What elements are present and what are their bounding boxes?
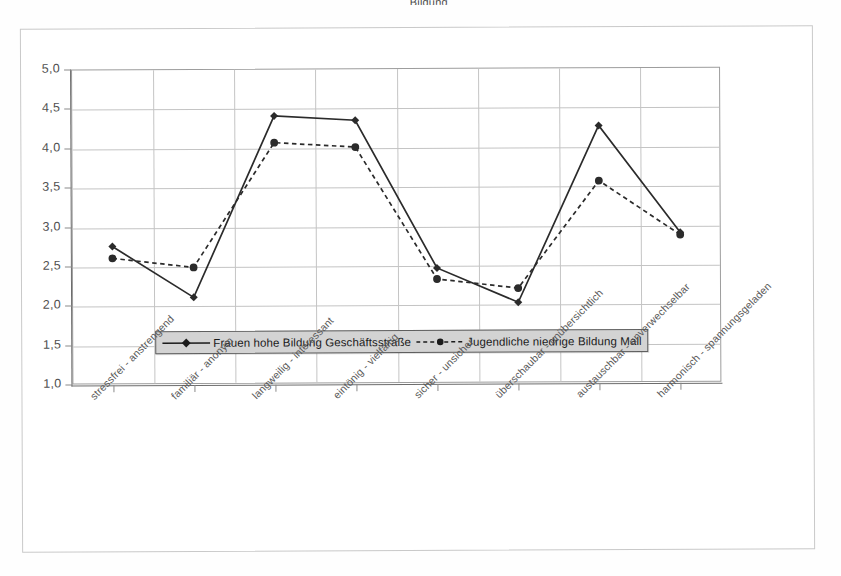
x-axis-tick	[113, 385, 114, 392]
y-axis-tick	[64, 109, 71, 110]
data-point-marker[interactable]	[108, 243, 116, 251]
x-axis-tick	[437, 384, 438, 391]
data-point-marker[interactable]	[595, 177, 603, 185]
y-axis-label: 1,5	[15, 337, 61, 351]
y-axis-tick	[65, 266, 72, 267]
x-axis-tick	[600, 383, 601, 390]
y-axis-tick	[65, 188, 72, 189]
y-axis-label: 2,5	[15, 258, 61, 272]
x-axis-tick	[519, 384, 520, 391]
series-line-1	[112, 114, 681, 304]
data-point-marker[interactable]	[109, 254, 117, 262]
y-axis-tick	[65, 345, 72, 346]
x-axis-tick	[681, 383, 682, 390]
data-point-marker[interactable]	[676, 231, 684, 239]
data-point-marker[interactable]	[514, 284, 522, 292]
y-axis-tick	[64, 148, 71, 149]
y-axis-tick	[65, 306, 72, 307]
y-axis-label: 3,5	[15, 180, 61, 194]
scanned-page: Bildung Frauen hohe Bildung Geschäftsstr…	[0, 0, 841, 576]
y-axis-tick	[65, 385, 72, 386]
data-point-marker[interactable]	[190, 293, 198, 301]
y-axis-tick	[64, 70, 71, 71]
y-axis-label: 1,0	[15, 377, 61, 391]
y-axis-label: 2,0	[15, 298, 61, 312]
legend-key-solid-diamond	[162, 336, 210, 348]
data-point-marker[interactable]	[514, 298, 522, 306]
data-point-marker[interactable]	[433, 264, 441, 272]
y-axis-label: 4,0	[14, 140, 60, 154]
data-point-marker[interactable]	[190, 264, 198, 272]
x-axis-tick	[194, 385, 195, 392]
data-point-marker[interactable]	[270, 112, 278, 120]
y-axis-label: 4,5	[14, 101, 60, 115]
data-point-marker[interactable]	[270, 139, 278, 147]
y-axis-tick	[65, 227, 72, 228]
legend-entry-series2[interactable]: Jugendliche niedrige Bildung Mall	[416, 335, 642, 348]
x-axis-tick	[356, 384, 357, 391]
data-point-marker[interactable]	[351, 143, 359, 151]
y-axis-label: 5,0	[14, 62, 60, 76]
x-axis-tick	[275, 385, 276, 392]
data-point-marker[interactable]	[351, 116, 359, 124]
legend-entry-series1[interactable]: Frauen hohe Bildung Geschäftsstraße	[162, 336, 411, 349]
cut-off-title-fragment: Bildung	[299, 0, 559, 6]
chart-figure: Bildung Frauen hohe Bildung Geschäftsstr…	[0, 0, 841, 576]
y-axis-label: 3,0	[15, 219, 61, 233]
data-point-marker[interactable]	[433, 275, 441, 283]
